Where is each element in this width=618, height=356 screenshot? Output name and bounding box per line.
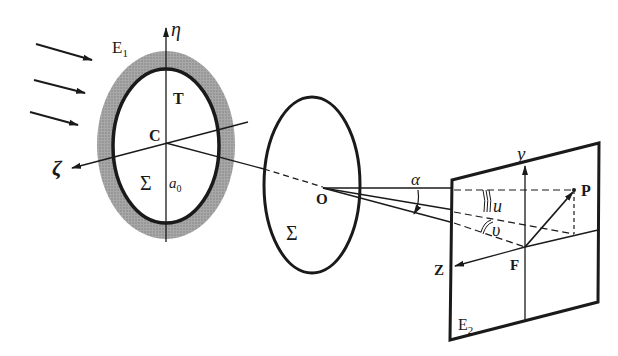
label-y: y <box>515 143 526 164</box>
ray-u <box>323 188 454 210</box>
label-C: C <box>149 127 161 144</box>
label-zeta: ζ <box>52 155 63 180</box>
arrow-icon <box>30 112 78 125</box>
alpha-angle-arc <box>414 190 419 214</box>
label-v: υ <box>492 220 500 240</box>
label-F: F <box>510 257 519 273</box>
ray-dashed-inside-lens <box>264 169 323 187</box>
label-Z: Z <box>434 262 444 278</box>
label-sigma-aperture: Σ <box>140 172 152 194</box>
label-sigma-lens: Σ <box>286 222 298 244</box>
label-P: P <box>581 182 591 199</box>
label-T: T <box>173 90 184 107</box>
label-u: u <box>493 196 502 216</box>
arrow-icon <box>36 44 92 60</box>
incident-light-arrows <box>30 44 92 125</box>
ray-v <box>323 188 454 223</box>
label-O: O <box>316 191 328 207</box>
label-E1: E1 <box>112 38 128 59</box>
arrow-icon <box>34 80 85 93</box>
point-P <box>572 188 576 192</box>
diagram-canvas: E1 η ζ T C Σ a0 O Σ α u υ y Z F P E2 <box>0 0 618 356</box>
label-eta: η <box>171 18 181 41</box>
label-alpha: α <box>411 170 421 189</box>
lens-sigma <box>264 97 360 273</box>
screen-E2 <box>450 143 599 340</box>
rays-from-O <box>323 188 454 223</box>
